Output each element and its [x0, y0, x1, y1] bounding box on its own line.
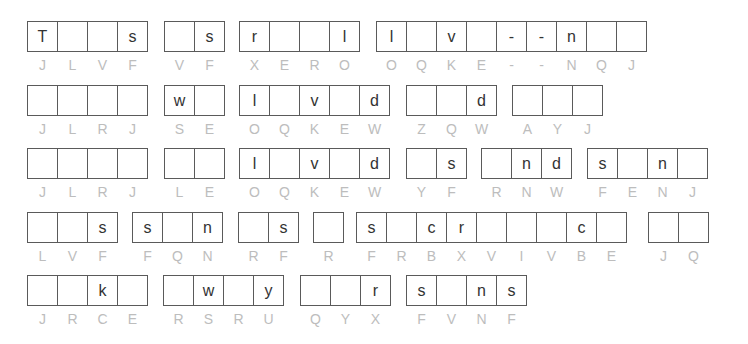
letter-input-cell[interactable]: s — [268, 212, 299, 243]
letter-input-cell[interactable] — [300, 275, 331, 306]
letter-input-cell[interactable]: s — [87, 212, 118, 243]
letter-input-cell[interactable] — [436, 85, 467, 116]
letter-input-cell[interactable] — [57, 21, 88, 52]
letter-input-cell[interactable] — [117, 85, 148, 116]
letter-input-cell[interactable] — [329, 85, 360, 116]
letter-input-cell[interactable] — [27, 85, 58, 116]
letter-input-cell[interactable] — [406, 21, 437, 52]
letter-input-cell[interactable]: d — [541, 148, 572, 179]
letter-input-cell[interactable]: - — [526, 21, 557, 52]
letter-input-cell[interactable] — [506, 212, 537, 243]
letter-input-cell[interactable] — [57, 275, 88, 306]
letter-input-cell[interactable]: d — [466, 85, 497, 116]
letter-input-cell[interactable] — [27, 275, 58, 306]
letter-input-cell[interactable] — [57, 148, 88, 179]
letter-input-cell[interactable] — [330, 275, 361, 306]
letter-input-cell[interactable] — [386, 212, 417, 243]
letter-input-cell[interactable] — [163, 275, 194, 306]
letter-input-cell[interactable]: y — [253, 275, 284, 306]
letter-input-cell[interactable]: l — [376, 21, 407, 52]
word-group: VsF — [164, 21, 225, 78]
letter-input-cell[interactable] — [57, 85, 88, 116]
letter-input-cell[interactable] — [329, 148, 360, 179]
letter-input-cell[interactable] — [677, 148, 708, 179]
letter-input-cell[interactable] — [542, 85, 573, 116]
letter-input-cell[interactable]: s — [436, 148, 467, 179]
letter-input-cell[interactable] — [476, 212, 507, 243]
letter-input-cell[interactable] — [617, 148, 648, 179]
letter-input-cell[interactable] — [57, 212, 88, 243]
letter-input-cell[interactable] — [481, 148, 512, 179]
letter-input-cell[interactable] — [87, 148, 118, 179]
letter-input-cell[interactable] — [117, 275, 148, 306]
letter-input-cell[interactable] — [406, 148, 437, 179]
letter-input-cell[interactable]: d — [359, 148, 390, 179]
letter-input-cell[interactable] — [194, 148, 225, 179]
letter-input-cell[interactable] — [164, 21, 195, 52]
letter-input-cell[interactable] — [299, 21, 330, 52]
word-group: sFEnNJ — [587, 148, 708, 205]
letter-input-cell[interactable]: d — [359, 85, 390, 116]
letter-input-cell[interactable] — [616, 21, 647, 52]
letter-input-cell[interactable] — [269, 21, 300, 52]
letter-input-cell[interactable]: v — [436, 21, 467, 52]
letter-input-cell[interactable]: c — [416, 212, 447, 243]
letter-input-cell[interactable] — [678, 212, 709, 243]
letter-input-cell[interactable] — [87, 21, 118, 52]
letter-input-cell[interactable]: r — [446, 212, 477, 243]
letter-input-cell[interactable]: n — [192, 212, 223, 243]
letter-input-cell[interactable] — [648, 212, 679, 243]
letter-input-cell[interactable] — [436, 275, 467, 306]
letter-input-cell[interactable]: v — [299, 148, 330, 179]
letter-input-cell[interactable]: n — [647, 148, 678, 179]
letter-input-cell[interactable]: v — [299, 85, 330, 116]
letter-input-cell[interactable]: w — [164, 85, 195, 116]
letter-input-cell[interactable]: - — [496, 21, 527, 52]
letter-input-cell[interactable] — [572, 85, 603, 116]
letter-input-cell[interactable]: n — [466, 275, 497, 306]
letter-input-cell[interactable]: s — [356, 212, 387, 243]
letter-input-cell[interactable] — [269, 148, 300, 179]
letter-input-cell[interactable] — [117, 148, 148, 179]
letter-input-cell[interactable] — [512, 85, 543, 116]
letter-input-cell[interactable] — [164, 148, 195, 179]
letter-input-cell[interactable]: n — [556, 21, 587, 52]
letter-input-cell[interactable]: s — [406, 275, 437, 306]
word-group: JQ — [648, 212, 709, 269]
letter-input-cell[interactable]: w — [193, 275, 224, 306]
letter-input-cell[interactable]: s — [496, 275, 527, 306]
letter-input-cell[interactable]: r — [239, 21, 270, 52]
cipher-letter: L — [69, 116, 77, 142]
letter-input-cell[interactable] — [596, 212, 627, 243]
cipher-letter: X — [371, 306, 380, 332]
letter-input-cell[interactable] — [194, 85, 225, 116]
letter-input-cell[interactable]: n — [511, 148, 542, 179]
letter-input-cell[interactable]: T — [27, 21, 58, 52]
letter-input-cell[interactable]: s — [117, 21, 148, 52]
letter-input-cell[interactable]: s — [132, 212, 163, 243]
letter-input-cell[interactable]: r — [360, 275, 391, 306]
letter-input-cell[interactable] — [223, 275, 254, 306]
letter-input-cell[interactable] — [536, 212, 567, 243]
letter-input-cell[interactable] — [87, 85, 118, 116]
letter-input-cell[interactable]: k — [87, 275, 118, 306]
letter-column: E — [269, 21, 300, 78]
letter-input-cell[interactable] — [238, 212, 269, 243]
letter-input-cell[interactable]: c — [566, 212, 597, 243]
letter-input-cell[interactable] — [466, 21, 497, 52]
letter-input-cell[interactable]: s — [194, 21, 225, 52]
letter-input-cell[interactable] — [586, 21, 617, 52]
letter-input-cell[interactable]: s — [587, 148, 618, 179]
letter-input-cell[interactable] — [406, 85, 437, 116]
letter-input-cell[interactable] — [162, 212, 193, 243]
letter-input-cell[interactable]: l — [329, 21, 360, 52]
letter-column: L — [27, 212, 58, 269]
letter-input-cell[interactable]: l — [239, 85, 270, 116]
letter-column: sF — [406, 275, 437, 332]
cipher-letter: Q — [172, 243, 183, 269]
letter-input-cell[interactable] — [269, 85, 300, 116]
letter-input-cell[interactable] — [27, 148, 58, 179]
letter-input-cell[interactable] — [313, 212, 344, 243]
letter-input-cell[interactable]: l — [239, 148, 270, 179]
letter-input-cell[interactable] — [27, 212, 58, 243]
